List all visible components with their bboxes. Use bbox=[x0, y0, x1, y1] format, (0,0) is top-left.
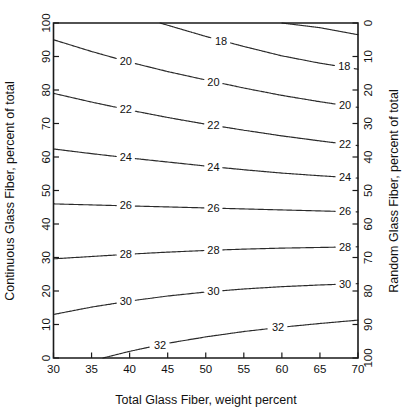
contour-label-30: 30 bbox=[207, 285, 219, 297]
contour-label-30: 30 bbox=[339, 278, 351, 290]
contour-label-24: 24 bbox=[207, 161, 219, 173]
y-left-tick-label: 100 bbox=[40, 13, 52, 32]
y-left-tick-label: 50 bbox=[40, 184, 52, 197]
x-tick-label: 50 bbox=[199, 363, 212, 375]
x-tick-label: 65 bbox=[314, 363, 327, 375]
y-right-tick-label: 70 bbox=[362, 251, 374, 264]
x-tick-label: 45 bbox=[161, 363, 174, 375]
contour-plot-figure: 3035404550556065700102030405060708090100… bbox=[0, 0, 410, 417]
contour-label-22: 22 bbox=[120, 103, 132, 115]
contour-label-22: 22 bbox=[339, 138, 351, 150]
y-right-tick-label: 80 bbox=[362, 285, 374, 298]
contour-label-24: 24 bbox=[339, 171, 351, 183]
y-right-tick-label: 100 bbox=[362, 348, 374, 367]
plot-canvas: 3035404550556065700102030405060708090100… bbox=[0, 0, 410, 417]
y-left-axis-title: Continuous Glass Fiber, percent of total bbox=[3, 81, 17, 301]
y-right-tick-label: 0 bbox=[362, 20, 374, 26]
x-tick-label: 35 bbox=[85, 363, 98, 375]
y-left-tick-label: 10 bbox=[40, 318, 52, 331]
y-right-tick-label: 40 bbox=[362, 151, 374, 164]
contour-label-26: 26 bbox=[207, 202, 219, 214]
contour-label-28: 28 bbox=[120, 248, 132, 260]
y-right-tick-label: 20 bbox=[362, 84, 374, 97]
contour-label-26: 26 bbox=[339, 205, 351, 217]
x-tick-label: 40 bbox=[123, 363, 136, 375]
y-left-tick-label: 60 bbox=[40, 151, 52, 164]
x-tick-label: 60 bbox=[276, 363, 289, 375]
y-right-tick-label: 60 bbox=[362, 218, 374, 231]
y-right-tick-label: 10 bbox=[362, 50, 374, 63]
contour-label-32: 32 bbox=[272, 321, 284, 333]
x-tick-label: 30 bbox=[47, 363, 60, 375]
contour-label-20: 20 bbox=[339, 99, 351, 111]
x-tick-label: 55 bbox=[237, 363, 250, 375]
contour-label-22: 22 bbox=[207, 119, 219, 131]
y-left-tick-label: 20 bbox=[40, 285, 52, 298]
contour-label-28: 28 bbox=[207, 244, 219, 256]
contour-label-30: 30 bbox=[120, 295, 132, 307]
contour-label-28: 28 bbox=[339, 241, 351, 253]
y-left-tick-label: 90 bbox=[40, 50, 52, 63]
x-axis-title: Total Glass Fiber, weight percent bbox=[115, 393, 297, 407]
y-left-tick-label: 70 bbox=[40, 117, 52, 130]
y-right-tick-label: 30 bbox=[362, 117, 374, 130]
contour-label-20: 20 bbox=[120, 55, 132, 67]
contour-label-26: 26 bbox=[120, 199, 132, 211]
y-right-tick-label: 90 bbox=[362, 318, 374, 331]
y-right-axis-title: Random Glass Fiber, percent of total bbox=[387, 89, 401, 293]
contour-label-18: 18 bbox=[215, 35, 227, 47]
y-right-tick-label: 50 bbox=[362, 184, 374, 197]
contour-label-18: 18 bbox=[338, 60, 350, 72]
y-left-tick-label: 0 bbox=[40, 355, 52, 361]
contour-label-20: 20 bbox=[207, 76, 219, 88]
y-left-tick-label: 40 bbox=[40, 218, 52, 231]
contour-label-24: 24 bbox=[120, 151, 132, 163]
contour-label-32: 32 bbox=[154, 339, 166, 351]
y-left-tick-label: 80 bbox=[40, 84, 52, 97]
y-left-tick-label: 30 bbox=[40, 251, 52, 264]
